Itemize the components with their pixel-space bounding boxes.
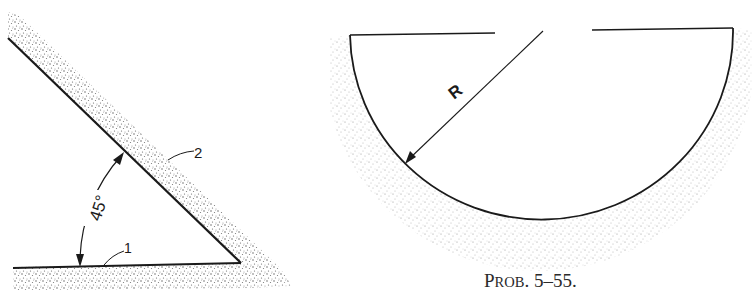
figure-caption: PROB. 5–55. xyxy=(484,270,577,291)
caption-prefix: P xyxy=(484,270,495,291)
label-1-leader xyxy=(104,251,124,265)
diagram-canvas: 45° 1 2 R PROB. 5–55. xyxy=(0,0,752,302)
caption-smallcaps: ROB xyxy=(495,274,525,290)
caption-number: . 5–55. xyxy=(524,270,576,291)
label-2-leader xyxy=(168,151,194,160)
wedge-figure: 45° 1 2 xyxy=(8,12,292,290)
surface-2-label: 2 xyxy=(194,144,202,161)
arrowhead-bottom-icon xyxy=(76,254,84,267)
surface-1-label: 1 xyxy=(124,240,132,256)
surface-2-line xyxy=(8,38,241,263)
surface-2-stipple xyxy=(8,12,292,286)
hemispherical-cavity-figure: R xyxy=(330,28,752,271)
